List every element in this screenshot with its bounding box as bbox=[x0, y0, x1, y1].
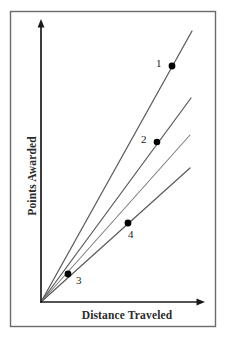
data-line-1 bbox=[41, 31, 192, 302]
data-point-1 bbox=[169, 63, 176, 70]
data-point-label-3: 3 bbox=[76, 274, 82, 286]
data-point-2 bbox=[154, 139, 161, 146]
x-axis-title: Distance Traveled bbox=[0, 309, 230, 321]
data-point-3 bbox=[65, 271, 72, 278]
data-point-label-4: 4 bbox=[128, 228, 134, 240]
horizontal-axis bbox=[40, 299, 205, 306]
chart-figure: 1 2 3 4 Distance Traveled Points Awarded bbox=[0, 0, 230, 338]
data-point-4 bbox=[125, 220, 132, 227]
data-line-2 bbox=[41, 98, 191, 302]
data-line-4 bbox=[41, 168, 190, 302]
vertical-axis bbox=[38, 19, 45, 303]
data-point-label-2: 2 bbox=[141, 133, 147, 145]
data-line-3 bbox=[41, 135, 190, 302]
data-point-label-1: 1 bbox=[156, 57, 162, 69]
data-lines bbox=[41, 31, 192, 302]
y-axis-title: Points Awarded bbox=[26, 101, 38, 251]
